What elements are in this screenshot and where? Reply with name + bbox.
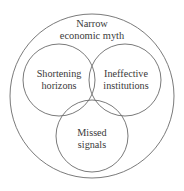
set-label-ineffective-institutions-line-1: Ineffective bbox=[104, 68, 148, 79]
set-label-shortening-horizons-line-1: Shortening bbox=[37, 68, 82, 79]
venn-diagram-canvas: Narrow economic myth Shortening horizons… bbox=[0, 0, 184, 191]
set-label-missed-signals-line-2: signals bbox=[78, 139, 106, 150]
set-label-missed-signals-line-1: Missed bbox=[77, 127, 106, 138]
set-label-shortening-horizons-line-2: horizons bbox=[41, 80, 76, 91]
venn-diagram: Narrow economic myth Shortening horizons… bbox=[0, 0, 184, 191]
outer-label-line-1: Narrow bbox=[76, 18, 108, 29]
outer-label-line-2: economic myth bbox=[60, 30, 125, 41]
set-label-ineffective-institutions-line-2: institutions bbox=[103, 80, 148, 91]
